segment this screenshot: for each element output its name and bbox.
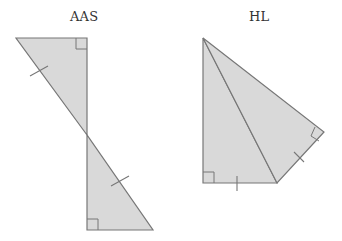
hl-figure	[203, 38, 324, 191]
congruence-diagram	[0, 0, 342, 241]
aas-bottom-triangle	[87, 135, 153, 230]
aas-top-triangle	[16, 38, 87, 135]
aas-figure	[16, 38, 153, 230]
